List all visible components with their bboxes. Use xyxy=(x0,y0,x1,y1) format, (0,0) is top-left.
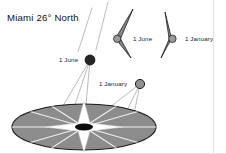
ray-top-2 xyxy=(96,2,108,50)
bottom-edge-line xyxy=(0,153,226,154)
diagram-canvas xyxy=(0,0,226,154)
cone-june xyxy=(114,9,134,58)
sun-june-label: 1 June xyxy=(59,57,78,63)
cone-june-label: 1 June xyxy=(133,36,152,42)
cone-january-vertex-dot xyxy=(169,35,176,42)
cone-january-body xyxy=(161,12,172,58)
page-title: Miami 26° North xyxy=(7,13,79,23)
cone-january-label: 1 January xyxy=(185,36,213,42)
horizon-plane xyxy=(12,101,156,152)
cone-june-body xyxy=(116,9,134,58)
sun-january-marker xyxy=(135,79,144,88)
cone-january xyxy=(161,12,176,58)
sun-january-label: 1 January xyxy=(99,81,127,87)
right-edge-line xyxy=(213,0,214,154)
ray-top-1 xyxy=(78,8,92,52)
compass-center-dot xyxy=(75,124,93,131)
solar-path-diagram: Miami 26° North 1 June 1 January 1 June … xyxy=(0,0,226,154)
cone-june-vertex-dot xyxy=(114,35,121,42)
sun-june-marker xyxy=(85,55,96,66)
